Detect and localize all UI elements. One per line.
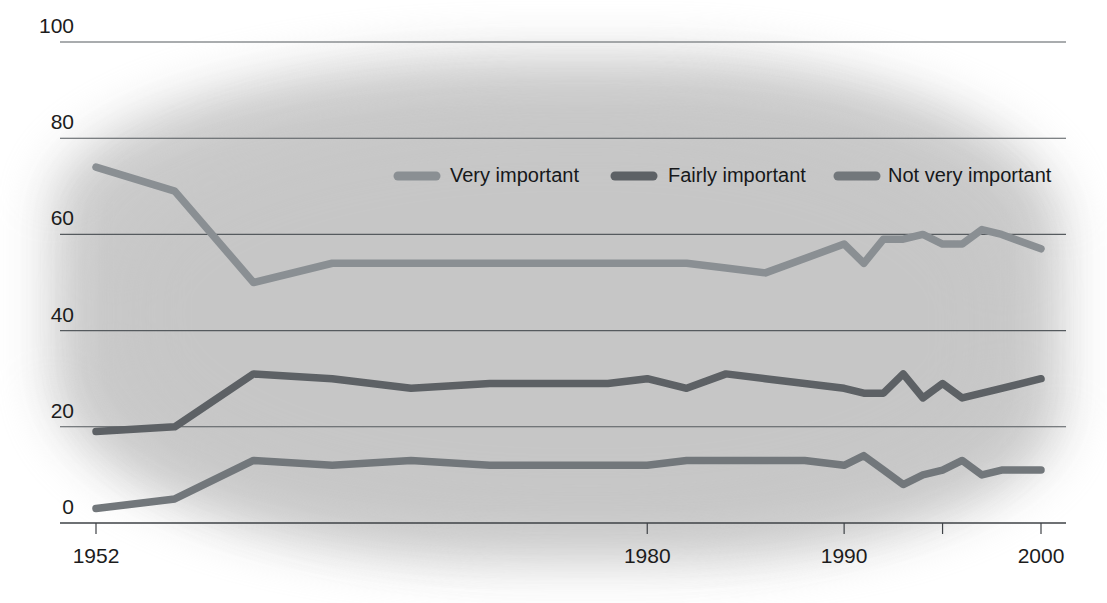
legend-label-0: Very important [450, 164, 579, 186]
chart-container: 020406080100 1952198019902000 Very impor… [0, 0, 1107, 603]
data-series-lines [96, 167, 1041, 509]
legend-label-2: Not very important [888, 164, 1052, 186]
y-tick-label: 80 [51, 110, 74, 133]
y-tick-label: 100 [39, 14, 74, 37]
y-tick-label: 60 [51, 206, 74, 229]
series-line-fairly-important [96, 374, 1041, 432]
line-chart-svg: 020406080100 1952198019902000 Very impor… [0, 0, 1107, 603]
legend-label-1: Fairly important [668, 164, 806, 186]
chart-legend: Very importantFairly importantNot very i… [398, 164, 1052, 186]
x-axis-tick-labels: 1952198019902000 [73, 544, 1065, 567]
x-axis [96, 523, 1041, 534]
y-tick-label: 20 [51, 399, 74, 422]
series-line-not-very-important [96, 456, 1041, 509]
x-tick-label: 1980 [624, 544, 671, 567]
x-tick-label: 2000 [1018, 544, 1065, 567]
x-tick-label: 1952 [73, 544, 120, 567]
y-tick-label: 40 [51, 303, 74, 326]
x-tick-label: 1990 [821, 544, 868, 567]
gridlines [60, 42, 1066, 523]
y-axis-tick-labels: 020406080100 [39, 14, 74, 518]
y-tick-label: 0 [62, 495, 74, 518]
